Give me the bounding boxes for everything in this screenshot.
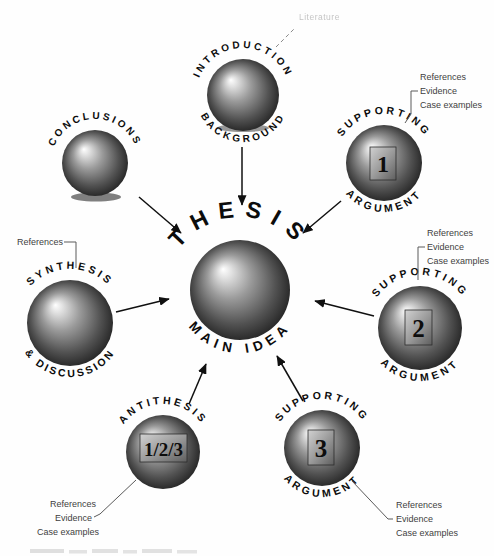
synthesis-sphere (27, 280, 113, 366)
annotation-line: References (427, 228, 474, 238)
arrow-supporting3-to-thesis (277, 356, 303, 401)
annotation-connector (352, 481, 393, 519)
synthesis-note-label: References (17, 237, 64, 247)
node-introduction: INTRODUCTION BACKGROUND Literature (191, 12, 340, 144)
arrow-antithesis-to-thesis (189, 364, 206, 404)
node-antithesis: ANTITHESIS 1/2/3 (116, 394, 210, 489)
node-synthesis: SYNTHESIS & DISCUSSION References (17, 237, 117, 379)
annotation-line: Evidence (427, 242, 464, 252)
supporting1-badge: 1 (377, 151, 389, 177)
introduction-note-label: Literature (299, 12, 340, 22)
conclusions-sphere (62, 130, 128, 196)
node-thesis: THESIS MAIN IDEA (163, 195, 316, 356)
annotation-line: Evidence (55, 513, 92, 523)
node-supporting-argument-3: SUPPORTING ARGUMENT 3 (272, 389, 372, 500)
annotation-block-antithesis: References Evidence Case examples (37, 480, 136, 537)
annotation-line: References (396, 500, 443, 510)
supporting3-badge: 3 (315, 435, 328, 462)
arrow-supporting2-to-thesis (315, 301, 374, 316)
supporting2-badge: 2 (412, 315, 425, 342)
introduction-sphere (207, 59, 279, 131)
node-conclusions: CONCLUSIONS (46, 110, 144, 202)
arrow-synthesis-to-thesis (116, 299, 169, 312)
annotation-line: References (50, 499, 97, 509)
node-supporting-argument-2: SUPPORTING ARGUMENT 2 (369, 265, 471, 384)
annotation-line: Case examples (37, 527, 100, 537)
annotation-line: Case examples (396, 528, 459, 538)
annotation-line: References (420, 72, 467, 82)
node-supporting-argument-1: SUPPORTING ARGUMENT 1 (334, 104, 434, 215)
annotation-line: Evidence (420, 86, 457, 96)
annotation-block-supporting3: References Evidence Case examples (352, 481, 459, 538)
annotation-line: Case examples (420, 100, 483, 110)
annotation-line: Evidence (396, 514, 433, 524)
annotation-connector (94, 480, 136, 517)
thesis-sphere (190, 240, 290, 340)
antithesis-badge: 1/2/3 (144, 439, 183, 460)
thesis-structure-diagram: THESIS MAIN IDEA INTRODUCTION BACKGROUND… (0, 0, 494, 556)
diagram-page: THESIS MAIN IDEA INTRODUCTION BACKGROUND… (0, 0, 494, 556)
annotation-line: Case examples (427, 256, 490, 266)
introduction-note-connector (276, 29, 294, 47)
caption-fragment-illegible (30, 549, 197, 554)
